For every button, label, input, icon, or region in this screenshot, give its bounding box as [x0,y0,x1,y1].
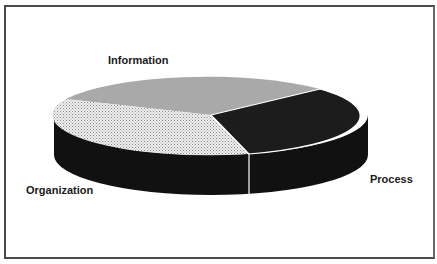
label-process: Process [370,173,413,185]
label-information: Information [108,54,169,66]
pie-chart [0,0,437,264]
label-organization: Organization [26,184,93,196]
